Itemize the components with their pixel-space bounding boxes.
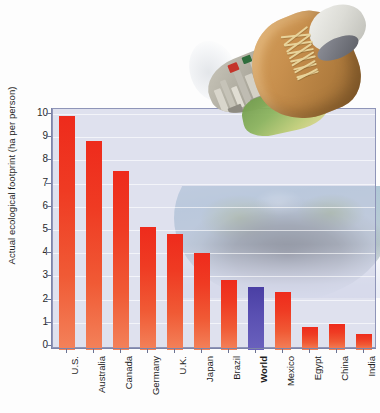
x-tick-mark xyxy=(66,349,67,353)
bar-world xyxy=(248,287,264,350)
x-tick-mark xyxy=(93,349,94,353)
x-tick-label: Germany xyxy=(151,356,161,395)
x-tick-mark xyxy=(255,349,256,353)
plot-area xyxy=(52,108,376,348)
y-tick-label: 0 xyxy=(22,340,48,350)
bar-germany xyxy=(140,227,156,350)
y-tick-mark xyxy=(46,229,51,230)
x-tick-mark xyxy=(282,349,283,353)
bar-series xyxy=(53,109,375,347)
y-tick-label: 8 xyxy=(22,154,48,164)
x-tick-label: Australia xyxy=(97,356,107,393)
x-tick-label: Mexico xyxy=(286,356,296,386)
y-tick-label: 4 xyxy=(22,247,48,257)
bar-egypt xyxy=(302,327,318,350)
y-tick-label: 9 xyxy=(22,131,48,141)
x-tick-label: Japan xyxy=(205,356,215,382)
y-axis-line xyxy=(51,108,52,349)
y-tick-mark xyxy=(46,299,51,300)
ecological-footprint-figure: 012345678910 U.S.AustraliaCanadaGermanyU… xyxy=(0,0,380,413)
y-tick-mark xyxy=(46,183,51,184)
x-tick-label: U.K. xyxy=(178,356,188,374)
bar-us xyxy=(59,116,75,350)
bar-australia xyxy=(86,141,102,350)
x-tick-mark xyxy=(174,349,175,353)
x-tick-mark xyxy=(120,349,121,353)
x-tick-label: Egypt xyxy=(313,356,323,380)
x-tick-mark xyxy=(309,349,310,353)
y-tick-mark xyxy=(46,275,51,276)
bar-china xyxy=(329,324,345,350)
y-tick-label: 10 xyxy=(22,108,48,118)
x-axis-line xyxy=(52,348,376,349)
bar-canada xyxy=(113,171,129,350)
bar-brazil xyxy=(221,280,237,350)
x-tick-mark xyxy=(336,349,337,353)
x-tick-label: India xyxy=(367,356,377,377)
bar-mexico xyxy=(275,292,291,350)
x-tick-label: U.S. xyxy=(70,356,80,374)
y-tick-mark xyxy=(46,322,51,323)
y-tick-label: 3 xyxy=(22,270,48,280)
y-tick-label: 5 xyxy=(22,224,48,234)
y-tick-mark xyxy=(46,159,51,160)
x-tick-label: China xyxy=(340,356,350,381)
x-tick-label: World xyxy=(259,356,269,383)
y-tick-label: 2 xyxy=(22,294,48,304)
y-tick-mark xyxy=(46,345,51,346)
bar-uk xyxy=(167,234,183,350)
y-tick-label: 1 xyxy=(22,317,48,327)
x-tick-mark xyxy=(201,349,202,353)
y-tick-mark xyxy=(46,136,51,137)
y-tick-mark xyxy=(46,113,51,114)
y-tick-label: 7 xyxy=(22,178,48,188)
y-axis-title: Actual ecological footprint (ha per pers… xyxy=(6,61,17,291)
y-tick-mark xyxy=(46,252,51,253)
x-tick-mark xyxy=(228,349,229,353)
x-tick-mark xyxy=(363,349,364,353)
x-tick-label: Brazil xyxy=(232,356,242,380)
x-tick-label: Canada xyxy=(124,356,134,389)
y-tick-label: 6 xyxy=(22,201,48,211)
bar-japan xyxy=(194,253,210,350)
x-tick-mark xyxy=(147,349,148,353)
y-tick-mark xyxy=(46,206,51,207)
